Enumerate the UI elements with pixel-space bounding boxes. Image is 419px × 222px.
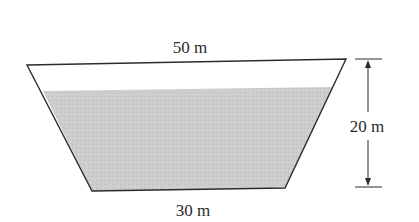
water-region bbox=[43, 87, 333, 191]
trapezoid-tank-diagram: 50 m 20 m 30 m bbox=[0, 0, 419, 222]
arrow-down-icon bbox=[365, 178, 371, 186]
bottom-width-label: 30 m bbox=[176, 201, 210, 220]
height-label: 20 m bbox=[350, 117, 384, 136]
top-width-label: 50 m bbox=[173, 38, 207, 57]
arrow-up-icon bbox=[365, 60, 371, 68]
